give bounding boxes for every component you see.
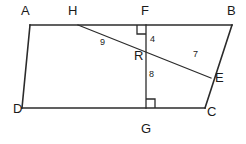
right-angle-mark-f xyxy=(137,25,146,34)
length-label-hr: 9 xyxy=(100,38,105,47)
vertex-label-g: G xyxy=(141,122,151,135)
vertex-label-r: R xyxy=(134,49,143,62)
figure-canvas xyxy=(0,0,246,144)
vertex-label-e: E xyxy=(215,71,224,84)
right-angle-mark-g xyxy=(146,99,155,108)
vertex-label-a: A xyxy=(21,4,30,17)
length-label-re: 7 xyxy=(193,50,198,59)
vertex-label-f: F xyxy=(141,4,149,17)
segments-group xyxy=(22,25,232,108)
length-label-rg: 8 xyxy=(149,70,154,79)
segment-he xyxy=(78,25,211,78)
vertex-label-h: H xyxy=(68,4,77,17)
segment-ad xyxy=(22,25,30,108)
geometry-diagram: AHFBREDCG 9478 xyxy=(0,0,246,144)
vertex-label-b: B xyxy=(227,4,236,17)
segment-bc xyxy=(205,25,232,108)
vertex-label-c: C xyxy=(207,105,216,118)
length-label-fr: 4 xyxy=(150,35,155,44)
vertex-label-d: D xyxy=(13,102,22,115)
